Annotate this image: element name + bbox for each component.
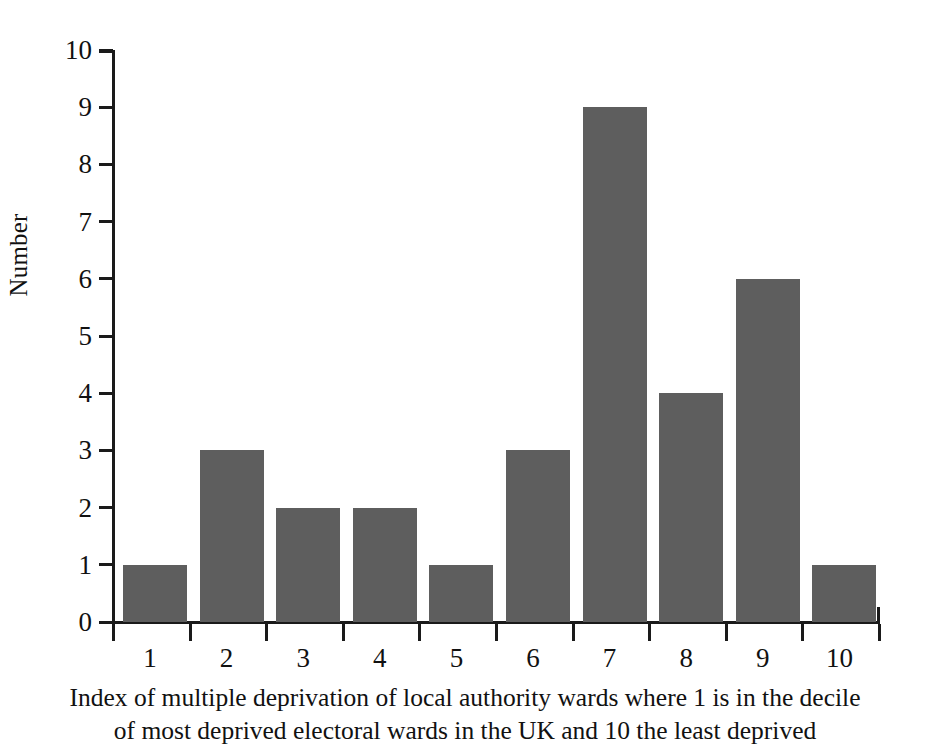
x-axis-tick (112, 624, 115, 641)
x-axis-tick (189, 624, 192, 641)
y-axis-tick (99, 277, 113, 280)
y-axis-tick (99, 335, 113, 338)
x-axis-tick (801, 624, 804, 641)
y-axis-tick-labels: 012345678910 (28, 0, 92, 751)
bar (506, 450, 570, 622)
x-axis-tick-label: 3 (265, 645, 341, 672)
bar (200, 450, 264, 622)
y-axis-tick-label: 8 (36, 151, 92, 178)
y-axis-tick-label: 4 (36, 380, 92, 407)
y-axis-tick (99, 49, 113, 52)
bar (659, 393, 723, 622)
bar (812, 565, 876, 622)
x-axis-tick-label: 5 (418, 645, 494, 672)
x-axis-tick (265, 624, 268, 641)
y-axis-tick-label: 6 (36, 265, 92, 292)
y-axis-tick (99, 392, 113, 395)
y-axis-tick (99, 220, 113, 223)
bar (429, 565, 493, 622)
x-axis-tick (342, 624, 345, 641)
y-axis-tick-label: 0 (36, 609, 92, 636)
y-axis-tick-label: 9 (36, 94, 92, 121)
bars-layer (112, 50, 878, 622)
x-axis-tick (648, 624, 651, 641)
y-axis-tick-label: 2 (36, 494, 92, 521)
y-axis-tick (99, 506, 113, 509)
x-axis-tick-label: 6 (495, 645, 571, 672)
x-axis-tick (495, 624, 498, 641)
x-axis-tick (572, 624, 575, 641)
x-axis-tick-label: 2 (189, 645, 265, 672)
x-axis-tick (418, 624, 421, 641)
x-axis-label: Index of multiple deprivation of local a… (60, 682, 870, 747)
x-axis-tick-label: 9 (725, 645, 801, 672)
y-axis-tick (99, 621, 113, 624)
bar (353, 508, 417, 622)
y-axis-tick (99, 106, 113, 109)
y-axis-tick (99, 563, 113, 566)
y-axis-tick-label: 1 (36, 551, 92, 578)
y-axis-tick-label: 7 (36, 208, 92, 235)
bar (736, 279, 800, 622)
bar (276, 508, 340, 622)
x-axis-tick-label: 7 (572, 645, 648, 672)
x-axis-tick (878, 624, 881, 641)
x-axis-tick-label: 10 (801, 645, 877, 672)
bar (583, 107, 647, 622)
y-axis-tick-label: 10 (36, 37, 92, 64)
y-axis-tick-label: 3 (36, 437, 92, 464)
x-axis-tick-label: 4 (342, 645, 418, 672)
y-axis-tick (99, 163, 113, 166)
y-axis-tick (99, 449, 113, 452)
bar-chart: Number 012345678910 12345678910 Index of… (0, 0, 927, 751)
x-axis-tick-label: 1 (112, 645, 188, 672)
x-axis-label-line-2: of most deprived electoral wards in the … (60, 715, 870, 748)
bar (123, 565, 187, 622)
x-axis-label-line-1: Index of multiple deprivation of local a… (60, 682, 870, 715)
y-axis-tick-label: 5 (36, 323, 92, 350)
x-axis-tick (725, 624, 728, 641)
x-axis-tick-label: 8 (648, 645, 724, 672)
